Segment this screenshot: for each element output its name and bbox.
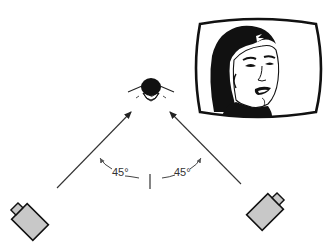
right-angle-label: 45° [174,166,191,178]
camera-setup-diagram: 45° 45° [0,0,332,250]
left-camera-icon [7,199,49,241]
left-angle-label: 45° [112,166,129,178]
diagram-canvas [0,0,332,250]
right-camera-icon [247,189,289,231]
subject-head-icon [128,78,174,101]
tv-monitor [196,19,321,117]
face-illustration [210,26,278,116]
